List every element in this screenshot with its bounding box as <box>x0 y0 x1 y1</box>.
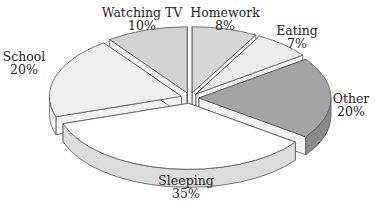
label-homework-pct: 8% <box>190 19 260 32</box>
label-eating: Eating 7% <box>272 24 322 50</box>
label-other-pct: 20% <box>326 105 376 118</box>
label-homework: Homework 8% <box>190 6 260 32</box>
label-sleeping-pct: 35% <box>151 187 221 200</box>
label-other: Other 20% <box>326 92 376 118</box>
label-watching-tv-pct: 10% <box>97 19 187 32</box>
label-watching-tv: Watching TV 10% <box>97 6 187 32</box>
label-eating-pct: 7% <box>272 37 322 50</box>
label-school-pct: 20% <box>2 63 46 76</box>
label-school: School 20% <box>2 50 46 76</box>
label-sleeping: Sleeping 35% <box>151 174 221 200</box>
